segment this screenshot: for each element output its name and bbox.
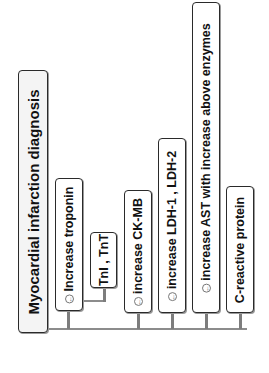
connector-stub-crp <box>239 313 242 329</box>
connector-stub-troponin <box>67 311 70 329</box>
connector-troponin-sub-v <box>103 287 106 302</box>
node-label: increase CK-MB <box>131 198 145 294</box>
node-label: Increase troponin <box>62 186 76 291</box>
collapse-icon[interactable]: ← <box>134 296 143 305</box>
node-increase-troponin[interactable]: ← Increase troponin <box>55 178 83 311</box>
root-node-label: Myocardial infarction diagnosis <box>25 89 42 314</box>
node-label: TnI , TnT <box>97 234 111 286</box>
collapse-icon[interactable]: ← <box>202 283 211 292</box>
node-increase-ast[interactable]: ← increase AST with increase above enzym… <box>192 2 220 313</box>
connector-stub-ldh <box>171 313 174 329</box>
connector-trunk <box>50 328 247 330</box>
connector-stub-ast <box>205 313 208 329</box>
node-c-reactive-protein[interactable]: C-reactive protein <box>226 186 254 313</box>
node-label: increase AST with increase above enzymes <box>199 23 213 280</box>
node-increase-ldh[interactable]: ← increase LDH-1 , LDH-2 <box>158 138 186 313</box>
collapse-icon[interactable]: ← <box>168 292 177 301</box>
node-label: C-reactive protein <box>233 196 247 302</box>
connector-stub-ckmb <box>137 313 140 329</box>
root-node[interactable]: Myocardial infarction diagnosis <box>18 70 48 333</box>
node-increase-ckmb[interactable]: ← increase CK-MB <box>124 190 152 313</box>
collapse-icon[interactable]: ← <box>65 294 74 303</box>
node-label: increase LDH-1 , LDH-2 <box>165 150 179 288</box>
connector-troponin-sub-h <box>82 300 104 302</box>
node-tni-tnt[interactable]: TnI , TnT <box>90 232 117 288</box>
